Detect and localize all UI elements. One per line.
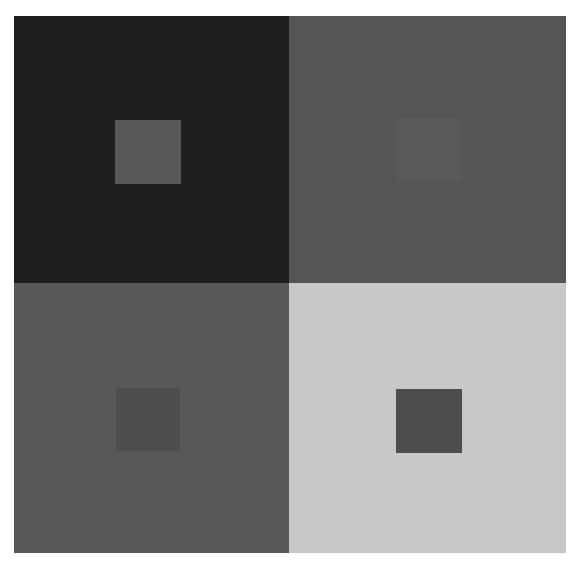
- quadrant-top-right: [289, 16, 566, 283]
- quadrant-bottom-right: [289, 283, 566, 553]
- center-square-bottom-left: [116, 388, 180, 451]
- quadrant-top-left: [14, 16, 289, 283]
- center-square-top-left: [115, 120, 181, 184]
- quadrant-bottom-left: [14, 283, 289, 553]
- center-square-bottom-right: [396, 389, 462, 453]
- center-square-top-right: [397, 118, 461, 180]
